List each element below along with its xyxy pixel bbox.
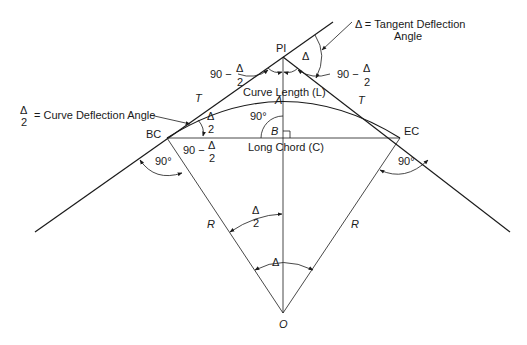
label-t-right: T: [358, 94, 366, 106]
pi-angle-arc-right: [284, 68, 298, 73]
label-curve-deflection: = Curve Deflection Angle: [34, 109, 155, 121]
frac-num-left: Δ: [236, 62, 244, 74]
label-90-minus-bc: 90 −: [183, 144, 205, 156]
label-r-right: R: [351, 218, 359, 230]
pointer-right-90: [298, 70, 330, 76]
label-o: O: [279, 318, 288, 330]
label-90-ec: 90°: [398, 155, 415, 167]
label-bc: BC: [146, 128, 161, 140]
label-90-right: 90 −: [337, 68, 359, 80]
frac-den-right: 2: [364, 76, 370, 88]
right-angle-mark: [283, 131, 290, 138]
delta-deflection-arc: [315, 35, 322, 78]
curve-deflection-pointer: [150, 115, 190, 124]
label-curve-length: Curve Length (L): [243, 86, 326, 98]
label-ec: EC: [404, 125, 419, 137]
frac-num-right: Δ: [363, 62, 371, 74]
curve-defl-num: Δ: [20, 104, 28, 116]
label-90-b: 90°: [250, 110, 267, 122]
radius-right-line: [283, 138, 400, 313]
pi-angle-arc-left: [268, 68, 282, 73]
label-t-left: T: [195, 92, 203, 104]
frac-den-o: 2: [253, 217, 259, 229]
label-tangent-deflection: Δ = Tangent Deflection: [355, 18, 465, 30]
curve-defl-den: 2: [21, 116, 27, 128]
frac-den-bc2: 2: [209, 152, 215, 164]
label-r-left: R: [207, 218, 215, 230]
label-long-chord: Long Chord (C): [248, 141, 324, 153]
curve-deflection-arc: [198, 120, 203, 136]
label-90-bc: 90°: [155, 155, 172, 167]
curve-arc: [167, 102, 400, 139]
delta-arc-o: [255, 263, 313, 271]
back-tangent-line: [35, 22, 333, 232]
radius-left-line: [167, 138, 283, 313]
label-delta-top: Δ: [302, 50, 310, 62]
frac-num-bc: Δ: [207, 110, 215, 122]
label-tangent-deflection-2: Angle: [394, 30, 422, 42]
frac-num-bc2: Δ: [208, 139, 216, 151]
curve-diagram: PI BC EC A B O Δ = Tangent Deflection An…: [0, 0, 527, 345]
label-delta-o: Δ: [272, 256, 280, 268]
label-90-left: 90 −: [210, 68, 232, 80]
label-pi: PI: [276, 42, 286, 54]
frac-den-bc: 2: [208, 123, 214, 135]
label-b: B: [271, 125, 278, 137]
frac-num-o: Δ: [252, 204, 260, 216]
